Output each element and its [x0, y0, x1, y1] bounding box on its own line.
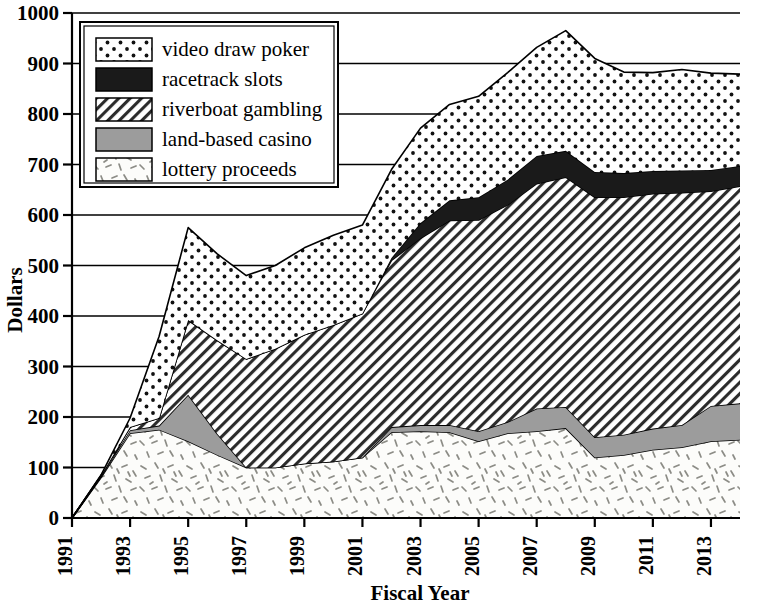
x-tick-label: 2005 — [461, 536, 483, 576]
x-tick-label: 2001 — [344, 536, 366, 576]
y-tick-label: 0 — [49, 506, 60, 530]
legend-label: land-based casino — [162, 127, 312, 151]
legend-swatch-diagonal-hatch — [96, 98, 152, 121]
y-tick-label: 600 — [28, 203, 60, 227]
legend-label: lottery proceeds — [162, 157, 297, 181]
y-tick-label: 700 — [28, 153, 60, 177]
y-tick-label: 400 — [28, 304, 60, 328]
x-tick-label: 2013 — [693, 536, 715, 576]
stacked-area-chart: 01002003004005006007008009001000 1991199… — [0, 0, 764, 608]
y-tick-label: 800 — [28, 102, 60, 126]
y-tick-label: 900 — [28, 52, 60, 76]
y-tick-label: 300 — [28, 355, 60, 379]
y-axis-title: Dollars — [3, 267, 27, 332]
legend-label: racetrack slots — [162, 67, 283, 91]
x-tick-label: 1999 — [286, 536, 308, 576]
chart-legend: video draw pokerracetrack slotsriverboat… — [80, 22, 338, 187]
legend-swatch-speckle — [96, 158, 152, 181]
legend-label: riverboat gambling — [162, 97, 323, 121]
x-tick-label: 2009 — [577, 536, 599, 576]
x-tick-label: 1997 — [228, 536, 250, 576]
x-axis-ticks: 1991199319951997199920012003200520072009… — [54, 518, 715, 576]
chart-container: 01002003004005006007008009001000 1991199… — [0, 0, 764, 608]
y-tick-label: 100 — [28, 456, 60, 480]
legend-swatch-dots — [96, 38, 152, 61]
x-tick-label: 1995 — [170, 536, 192, 576]
x-tick-label: 2003 — [403, 536, 425, 576]
y-tick-label: 500 — [28, 254, 60, 278]
y-axis-ticks: 01002003004005006007008009001000 — [17, 1, 72, 530]
x-tick-label: 1991 — [54, 536, 76, 576]
x-tick-label: 2011 — [635, 536, 657, 575]
legend-label: video draw poker — [162, 37, 309, 61]
legend-swatch-solid-gray — [96, 128, 152, 151]
x-axis-title: Fiscal Year — [371, 581, 470, 605]
y-tick-label: 200 — [28, 405, 60, 429]
y-tick-label: 1000 — [17, 1, 59, 25]
x-tick-label: 1993 — [112, 536, 134, 576]
x-tick-label: 2007 — [519, 536, 541, 576]
legend-swatch-solid-black — [96, 68, 152, 91]
